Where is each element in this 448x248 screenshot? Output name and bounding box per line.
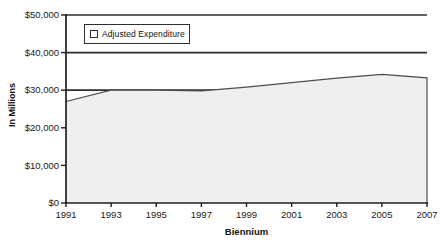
x-tick-label: 2001 (281, 209, 302, 220)
y-tick-label: $10,000 (25, 160, 59, 171)
legend-label: Adjusted Expenditure (102, 29, 185, 39)
x-tick-label: 2007 (416, 209, 437, 220)
plot-svg: $0$10,000$20,000$30,000$40,000$50,000199… (0, 0, 448, 248)
expenditure-area-chart: $0$10,000$20,000$30,000$40,000$50,000199… (0, 0, 448, 248)
y-tick-label: $0 (48, 197, 59, 208)
x-tick-label: 1993 (101, 209, 122, 220)
x-axis-title: Biennium (66, 226, 427, 237)
x-tick-label: 1999 (236, 209, 257, 220)
x-tick-label: 1991 (55, 209, 76, 220)
x-tick-label: 1997 (191, 209, 212, 220)
x-tick-label: 2005 (371, 209, 392, 220)
x-tick-label: 1995 (146, 209, 167, 220)
y-axis-title: In Millions (7, 60, 17, 150)
area-series (66, 74, 427, 203)
legend: Adjusted Expenditure (84, 24, 190, 44)
y-tick-label: $20,000 (25, 122, 59, 133)
y-tick-label: $50,000 (25, 9, 59, 20)
legend-swatch-icon (90, 30, 98, 38)
y-tick-label: $30,000 (25, 84, 59, 95)
y-tick-label: $40,000 (25, 47, 59, 58)
x-tick-label: 2003 (326, 209, 347, 220)
